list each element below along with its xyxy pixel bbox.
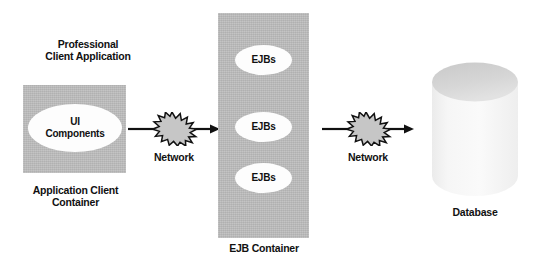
network-label-client-to-ejb: Network [134,151,214,163]
ejb-node-1-label: EJBs [235,54,292,66]
network-label-ejb-to-database: Network [328,151,408,163]
ejb-container-caption: EJB Container [203,242,325,254]
network-connector-ejb-to-database [322,112,414,146]
application-client-container-caption: Application Client Container [8,184,143,209]
ejb-node-2: EJBs [235,112,292,142]
database-caption: Database [424,206,526,218]
ejb-node-1: EJBs [235,45,292,75]
client-application-title: Professional Client Application [18,38,158,63]
ejb-node-3: EJBs [235,163,292,193]
database-cylinder-icon [431,62,519,196]
architecture-diagram: Professional Client Application UI Compo… [0,0,550,265]
ejb-node-2-label: EJBs [235,121,292,133]
network-connector-client-to-ejb [128,112,220,146]
ui-components-node: UI Components [28,104,122,152]
ui-components-label: UI Components [28,116,122,140]
ejb-node-3-label: EJBs [235,172,292,184]
